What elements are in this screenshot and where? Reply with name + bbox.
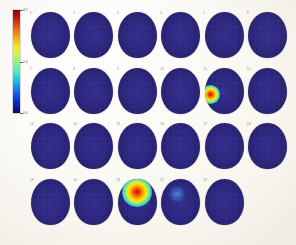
- brain-slice[interactable]: 8: [73, 68, 114, 115]
- slice-image: [118, 68, 157, 114]
- activation-hotspot: [169, 186, 185, 202]
- slice-image: [205, 12, 244, 58]
- slice-image: [161, 179, 200, 225]
- brain-slice[interactable]: 6: [247, 12, 288, 59]
- brain-slice[interactable]: 14: [73, 123, 114, 170]
- brain-slice[interactable]: 13: [30, 123, 71, 170]
- activation-hotspot: [205, 85, 221, 104]
- slice-image: [31, 123, 70, 169]
- slice-image: [248, 123, 287, 169]
- slice-montage-grid: 1234567891011121314151617181920212223: [30, 6, 292, 228]
- brain-slice[interactable]: 12: [247, 68, 288, 115]
- colorbar-tick-label-2: 0.0: [23, 111, 27, 115]
- slice-image: [74, 179, 113, 225]
- slice-image: [31, 68, 70, 114]
- brain-slice[interactable]: 18: [247, 123, 288, 170]
- brain-slice[interactable]: 22: [160, 179, 201, 226]
- slice-image: [205, 179, 244, 225]
- colorbar-tick-label-0: 4.7: [23, 8, 27, 12]
- brain-slice[interactable]: 2: [73, 12, 114, 59]
- slice-image: [205, 123, 244, 169]
- bleed-through-caption: ······ ·· ······· ·········· ·· ···· ···…: [42, 230, 260, 235]
- brain-slice-figure: 4.72.40.0 123456789101112131415161718192…: [0, 0, 296, 245]
- slice-image: [74, 123, 113, 169]
- brain-slice[interactable]: 11: [204, 68, 245, 115]
- slice-image: [205, 68, 244, 114]
- brain-slice[interactable]: 23: [204, 179, 245, 226]
- slice-image: [118, 123, 157, 169]
- colorbar-tick-label-1: 2.4: [23, 60, 27, 64]
- brain-slice[interactable]: 16: [160, 123, 201, 170]
- slice-image: [161, 12, 200, 58]
- brain-slice[interactable]: 3: [117, 12, 158, 59]
- colorbar-gradient: [13, 10, 20, 113]
- slice-image: [248, 68, 287, 114]
- slice-image: [118, 179, 157, 225]
- slice-row: 123456: [30, 6, 292, 56]
- slice-image: [74, 68, 113, 114]
- brain-slice[interactable]: 1: [30, 12, 71, 59]
- slice-image: [74, 12, 113, 58]
- brain-slice[interactable]: 7: [30, 68, 71, 115]
- brain-slice[interactable]: 10: [160, 68, 201, 115]
- brain-slice[interactable]: 17: [204, 123, 245, 170]
- slice-image: [118, 12, 157, 58]
- brain-slice[interactable]: 5: [204, 12, 245, 59]
- slice-image: [248, 12, 287, 58]
- activation-hotspot: [122, 179, 152, 208]
- slice-row: 789101112: [30, 62, 292, 112]
- brain-slice[interactable]: 9: [117, 68, 158, 115]
- brain-slice[interactable]: 21: [117, 179, 158, 226]
- brain-slice[interactable]: 20: [73, 179, 114, 226]
- slice-image: [161, 68, 200, 114]
- brain-slice[interactable]: 19: [30, 179, 71, 226]
- slice-image: [31, 179, 70, 225]
- brain-slice[interactable]: 4: [160, 12, 201, 59]
- brain-slice[interactable]: 15: [117, 123, 158, 170]
- slice-image: [161, 123, 200, 169]
- slice-row: 131415161718: [30, 117, 292, 167]
- slice-image: [31, 12, 70, 58]
- slice-row: 1920212223: [30, 173, 292, 223]
